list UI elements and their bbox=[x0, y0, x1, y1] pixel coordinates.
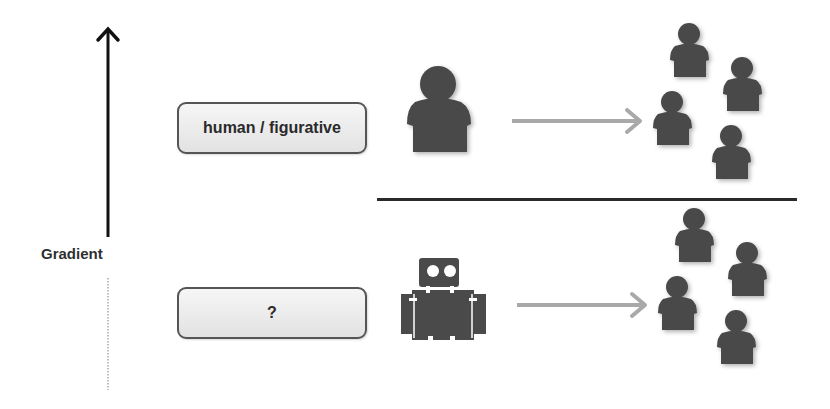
gradient-axis bbox=[90, 20, 130, 390]
gradient-label: Gradient bbox=[41, 245, 103, 262]
person-icon bbox=[405, 64, 485, 154]
row-label-human-figurative: human / figurative bbox=[177, 102, 367, 154]
arrow-right-icon bbox=[515, 291, 650, 321]
arrow-up-icon bbox=[90, 20, 130, 390]
arrow-right-icon bbox=[510, 107, 645, 137]
row-divider bbox=[377, 198, 797, 201]
group-of-people-icon bbox=[655, 205, 785, 375]
row-label-unknown: ? bbox=[177, 287, 367, 339]
group-of-people-icon bbox=[650, 20, 780, 190]
robot-icon bbox=[398, 254, 498, 344]
